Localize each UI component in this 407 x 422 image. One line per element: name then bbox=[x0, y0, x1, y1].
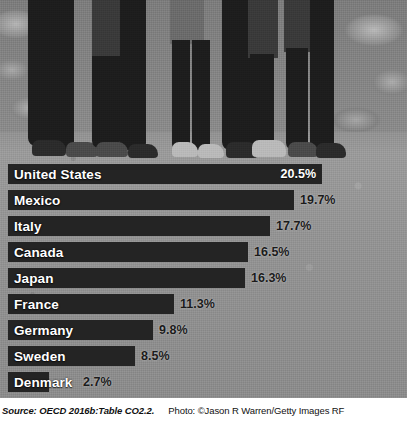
bar-value-label: 17.7% bbox=[276, 219, 311, 233]
bar-value-label: 11.3% bbox=[180, 297, 215, 311]
bar-denmark: Denmark bbox=[8, 372, 49, 392]
chart-row: Mexico 19.7% bbox=[8, 190, 335, 210]
bar-chart: United States 20.5% Mexico 19.7% Italy 1… bbox=[0, 158, 407, 396]
bar-united-states: United States 20.5% bbox=[8, 164, 322, 184]
bar-canada: Canada bbox=[8, 242, 248, 262]
bar-value-label: 16.3% bbox=[251, 271, 286, 285]
source-credit: Source: OECD 2016b:Table CO2.2. bbox=[2, 405, 154, 416]
figure-bar-chart-over-photo: United States 20.5% Mexico 19.7% Italy 1… bbox=[0, 0, 407, 422]
bar-italy: Italy bbox=[8, 216, 270, 236]
bar-category-label: Sweden bbox=[8, 349, 66, 364]
bar-category-label: France bbox=[8, 297, 59, 312]
chart-row: Italy 17.7% bbox=[8, 216, 311, 236]
bar-value-label: 9.8% bbox=[159, 323, 188, 337]
photo-credit: Photo: ©Jason R Warren/Getty Images RF bbox=[168, 405, 344, 416]
bar-category-label: Denmark bbox=[8, 375, 72, 390]
bar-japan: Japan bbox=[8, 268, 245, 288]
bar-category-label: United States bbox=[8, 167, 102, 182]
chart-row: United States 20.5% bbox=[8, 164, 322, 184]
chart-row: Sweden 8.5% bbox=[8, 346, 170, 366]
chart-row: Germany 9.8% bbox=[8, 320, 188, 340]
bar-category-label: Mexico bbox=[8, 193, 60, 208]
bar-value-label: 16.5% bbox=[254, 245, 289, 259]
bar-sweden: Sweden bbox=[8, 346, 135, 366]
bar-germany: Germany bbox=[8, 320, 153, 340]
chart-row: France 11.3% bbox=[8, 294, 215, 314]
bar-mexico: Mexico bbox=[8, 190, 294, 210]
bar-category-label: Japan bbox=[8, 271, 54, 286]
chart-row: Japan 16.3% bbox=[8, 268, 286, 288]
bar-category-label: Italy bbox=[8, 219, 42, 234]
bar-category-label: Germany bbox=[8, 323, 73, 338]
chart-row: Denmark 2.7% bbox=[8, 372, 112, 392]
chart-row: Canada 16.5% bbox=[8, 242, 289, 262]
bar-value-label: 20.5% bbox=[281, 167, 316, 181]
bar-value-label: 8.5% bbox=[141, 349, 170, 363]
caption-bar: Source: OECD 2016b:Table CO2.2. Photo: ©… bbox=[0, 398, 407, 422]
bar-france: France bbox=[8, 294, 174, 314]
bar-value-label: 2.7% bbox=[83, 375, 112, 389]
bar-category-label: Canada bbox=[8, 245, 63, 260]
bar-value-label: 19.7% bbox=[300, 193, 335, 207]
